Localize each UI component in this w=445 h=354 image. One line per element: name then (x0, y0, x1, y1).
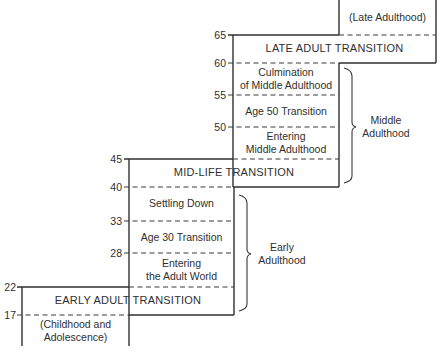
middle-adulthood-brace-icon (344, 68, 356, 183)
age-label-45: 45 (102, 153, 122, 165)
age-label-22: 22 (0, 281, 16, 293)
period-entering-adult-world: Entering the Adult World (129, 257, 234, 283)
age-label-65: 65 (206, 29, 226, 41)
age-label-50: 50 (206, 121, 226, 133)
period-age-30-transition: Age 30 Transition (129, 231, 234, 244)
period-late-adult-transition: LATE ADULT TRANSITION (233, 42, 436, 55)
period-settling-down: Settling Down (129, 197, 234, 210)
age-label-33: 33 (102, 215, 122, 227)
age-label-28: 28 (102, 247, 122, 259)
period-childhood-adolescence: (Childhood and Adolescence) (22, 318, 129, 344)
period-late-adulthood: (Late Adulthood) (339, 11, 436, 24)
early-adulthood-brace-icon (239, 195, 251, 311)
age-label-55: 55 (206, 89, 226, 101)
era-middle-adulthood: Middle Adulthood (358, 114, 414, 140)
age-label-40: 40 (102, 181, 122, 193)
period-early-adult-transition: EARLY ADULT TRANSITION (22, 294, 234, 307)
period-culmination-middle-adulthood: Culmination of Middle Adulthood (233, 66, 339, 92)
age-label-17: 17 (0, 309, 16, 321)
era-early-adulthood: Early Adulthood (254, 241, 310, 267)
period-age-50-transition: Age 50 Transition (233, 105, 339, 118)
age-label-60: 60 (206, 57, 226, 69)
period-mid-life-transition: MID-LIFE TRANSITION (129, 166, 339, 179)
period-entering-middle-adulthood: Entering Middle Adulthood (233, 130, 339, 156)
